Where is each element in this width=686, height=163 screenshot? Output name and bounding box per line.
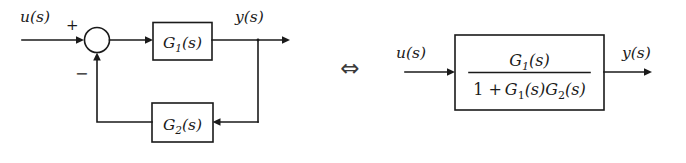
output-wire-right (604, 68, 652, 76)
feedback-wire-to-junction (93, 53, 152, 123)
input-wire-left (22, 36, 84, 44)
transfer-numerator: G1(s) (509, 51, 549, 73)
right-output-label: y(s) (621, 44, 651, 62)
forward-block-g1-label: G1(s) (163, 34, 202, 54)
feedback-wire-to-g2 (213, 118, 259, 126)
right-equivalent-diagram: u(s) G1(s) 1 +G1(s)G2(s) y(s) (396, 35, 652, 110)
summing-junction (85, 28, 110, 53)
feedback-block-g2-label: G2(s) (163, 116, 202, 136)
diagram-canvas: u(s) + − G1(s) y(s) (0, 0, 686, 163)
block-diagram-figure: u(s) + − G1(s) y(s) (0, 0, 686, 163)
left-output-label: y(s) (234, 8, 264, 26)
left-closed-loop-diagram: u(s) + − G1(s) y(s) (20, 8, 290, 142)
equivalence-symbol: ⇔ (340, 55, 359, 81)
right-input-label: u(s) (396, 44, 426, 62)
wire-junction-to-g1 (110, 36, 154, 44)
left-input-label: u(s) (20, 8, 50, 26)
summing-minus-sign: − (75, 64, 88, 83)
summing-plus-sign: + (66, 16, 79, 34)
input-wire-right (405, 68, 455, 76)
transfer-denominator: 1 +G1(s)G2(s) (473, 80, 586, 102)
wire-g1-to-output (212, 36, 290, 44)
